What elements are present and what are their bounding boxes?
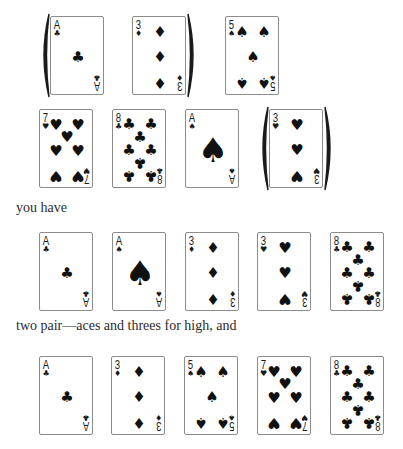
hearts-pip-icon: ♥ — [290, 143, 303, 158]
spades-pip-icon: ♠ — [198, 133, 228, 167]
card-rank: 3 — [189, 235, 194, 247]
card-index-tl: 3♥ — [272, 112, 279, 131]
clubs-pip-icon: ♣ — [362, 415, 375, 430]
playing-card-8-clubs: 8♣8♣♣♣♣♣♣♣♣♣ — [112, 109, 166, 188]
spades-pip-icon: ♠ — [257, 25, 270, 40]
hearts-pip-icon: ♥ — [278, 241, 291, 256]
card-index-tl: A♠ — [188, 112, 196, 131]
card-rank: 3 — [302, 296, 307, 308]
clubs-pip-icon: ♣ — [362, 291, 375, 306]
hearts-pip-icon: ♥ — [278, 291, 291, 306]
spades-pip-icon: ♠ — [125, 256, 155, 290]
playing-card-3-diamonds: 3♦3♦♦♦♦ — [132, 16, 186, 95]
playing-card-a-clubs: A♣A♣♣ — [39, 356, 93, 435]
spades-pip-icon: ♠ — [216, 365, 229, 380]
playing-card-a-clubs: A♣A♣♣ — [50, 16, 104, 95]
card-rank: 8 — [334, 359, 339, 371]
card-rank: 8 — [116, 112, 121, 124]
clubs-pip-icon: ♣ — [71, 50, 84, 65]
playing-card-a-clubs: A♣A♣♣ — [39, 232, 93, 311]
diamonds-pip-icon: ♦ — [132, 390, 145, 405]
diamonds-pip-icon: ♦ — [153, 75, 166, 90]
card-index-br: 3♥ — [301, 289, 308, 308]
card-index-tl: 7♥ — [42, 112, 49, 131]
card-index-tl: 3♦ — [135, 19, 142, 38]
hearts-pip-icon: ♥ — [71, 144, 84, 159]
diamonds-pip-icon: ♦ — [132, 365, 145, 380]
playing-card-7-hearts: 7♥7♥♥♥♥♥♥♥♥ — [257, 356, 311, 435]
card-index-tl: A♣ — [42, 359, 50, 378]
card-rank: A — [116, 235, 122, 247]
card-rank: 3 — [115, 359, 120, 371]
diamonds-pip-icon: ♦ — [153, 25, 166, 40]
card-rank: 3 — [177, 80, 182, 92]
playing-card-a-spades: A♠A♠♠ — [112, 232, 166, 311]
clubs-pip-icon: ♣ — [60, 390, 73, 405]
card-index-br: 3♥ — [313, 166, 320, 185]
hearts-pip-icon: ♥ — [289, 391, 302, 406]
card-index-tl: A♠ — [115, 235, 123, 254]
card-index-br: A♣ — [82, 289, 90, 308]
card-rank: 7 — [261, 359, 266, 371]
left-parenthesis-icon — [257, 106, 269, 191]
spades-pip-icon: ♠ — [194, 365, 207, 380]
card-rank: 8 — [334, 235, 339, 247]
card-index-br: 3♦ — [229, 289, 236, 308]
card-rank: A — [83, 296, 89, 308]
card-index-br: 3♦ — [176, 73, 183, 92]
playing-card-3-diamonds: 3♦3♦♦♦♦ — [111, 356, 165, 435]
diamonds-pip-icon: ♦ — [206, 241, 219, 256]
spades-pip-icon: ♠ — [216, 415, 229, 430]
text-you-have: you have — [16, 200, 67, 216]
card-index-br: A♣ — [93, 73, 101, 92]
card-rank: A — [43, 359, 49, 371]
clubs-pip-icon: ♣ — [144, 168, 157, 183]
card-rank: 3 — [314, 173, 319, 185]
card-rank: 3 — [136, 19, 141, 31]
hearts-pip-icon: ♥ — [290, 118, 303, 133]
card-rank: A — [189, 112, 195, 124]
card-index-br: 3♦ — [155, 413, 162, 432]
card-rank: A — [43, 235, 49, 247]
card-rank: 5 — [188, 359, 193, 371]
card-index-tl: 8♣ — [333, 359, 340, 378]
playing-card-7-hearts: 7♥7♥♥♥♥♥♥♥♥ — [39, 109, 93, 188]
clubs-pip-icon: ♣ — [122, 168, 135, 183]
playing-card-3-diamonds: 3♦3♦♦♦♦ — [185, 232, 239, 311]
clubs-pip-icon: ♣ — [60, 266, 73, 281]
card-rank: A — [156, 296, 162, 308]
spades-pip-icon: ♠ — [194, 415, 207, 430]
card-index-tl: 3♥ — [260, 235, 267, 254]
card-index-tl: 8♣ — [115, 112, 122, 131]
card-index-tl: A♣ — [42, 235, 50, 254]
card-rank: 3 — [156, 420, 161, 432]
right-parenthesis-icon — [187, 13, 199, 98]
right-parenthesis-icon — [324, 106, 336, 191]
playing-card-5-spades: 5♠5♠♠♠♠♠♠ — [184, 356, 238, 435]
diamonds-pip-icon: ♦ — [153, 50, 166, 65]
playing-card-5-spades: 5♠5♠♠♠♠♠♠ — [225, 16, 279, 95]
hearts-pip-icon: ♥ — [267, 391, 280, 406]
spades-pip-icon: ♠ — [235, 75, 248, 90]
card-rank: A — [54, 19, 60, 31]
card-index-br: A♣ — [82, 413, 90, 432]
card-rank: A — [83, 420, 89, 432]
hearts-pip-icon: ♥ — [278, 266, 291, 281]
card-rank: A — [229, 173, 235, 185]
hearts-pip-icon: ♥ — [289, 415, 302, 430]
hearts-pip-icon: ♥ — [71, 168, 84, 183]
card-rank: 5 — [229, 19, 234, 31]
spades-pip-icon: ♠ — [205, 390, 218, 405]
card-rank: 3 — [230, 296, 235, 308]
card-index-tl: 3♦ — [114, 359, 121, 378]
hearts-pip-icon: ♥ — [49, 144, 62, 159]
spades-pip-icon: ♠ — [257, 75, 270, 90]
spades-pip-icon: ♠ — [235, 25, 248, 40]
diamonds-pip-icon: ♦ — [206, 266, 219, 281]
diamonds-pip-icon: ♦ — [132, 415, 145, 430]
card-rank: 3 — [273, 112, 278, 124]
card-rank: A — [94, 80, 100, 92]
card-rank: 3 — [261, 235, 266, 247]
card-rank: 7 — [43, 112, 48, 124]
playing-card-3-hearts: 3♥3♥♥♥♥ — [257, 232, 311, 311]
